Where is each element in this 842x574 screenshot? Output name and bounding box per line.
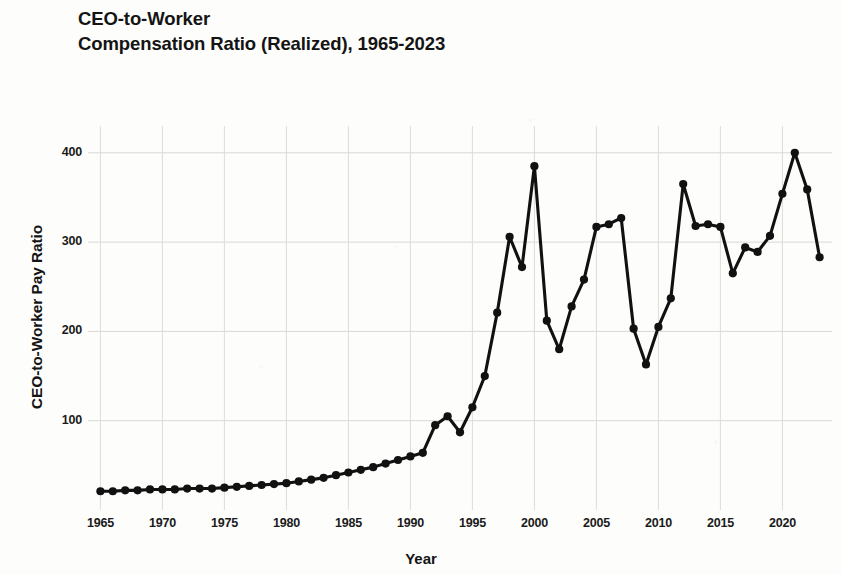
data-point [121, 486, 129, 494]
data-point [605, 220, 613, 228]
data-point [196, 484, 204, 492]
data-point [158, 485, 166, 493]
data-point [543, 317, 551, 325]
data-point [568, 302, 576, 310]
y-tick-label: 300 [36, 234, 82, 248]
data-point [419, 449, 427, 457]
data-point [344, 468, 352, 476]
data-point [506, 233, 514, 241]
data-point [320, 474, 328, 482]
data-point [481, 372, 489, 380]
data-point [382, 459, 390, 467]
data-point [518, 263, 526, 271]
x-tick-label: 2000 [504, 516, 564, 530]
data-point [146, 485, 154, 493]
data-point [258, 481, 266, 489]
data-point [183, 484, 191, 492]
x-tick-label: 1965 [70, 516, 130, 530]
y-axis-tick-labels: 100200300400 [34, 126, 82, 510]
x-tick-label: 2020 [752, 516, 812, 530]
data-point [592, 223, 600, 231]
line-chart-svg [88, 126, 832, 510]
data-point [270, 480, 278, 488]
chart-figure: CEO-to-Worker Compensation Ratio (Realiz… [0, 0, 842, 574]
x-axis-tick-labels: 1965197019751980198519901995200020052010… [88, 516, 832, 536]
data-point [233, 483, 241, 491]
x-tick-label: 1975 [194, 516, 254, 530]
data-point [679, 180, 687, 188]
data-point [667, 294, 675, 302]
data-point [406, 452, 414, 460]
x-tick-label: 1995 [442, 516, 502, 530]
y-tick-label: 200 [36, 323, 82, 337]
y-tick-label: 400 [36, 145, 82, 159]
x-tick-label: 2005 [566, 516, 626, 530]
data-point [766, 232, 774, 240]
x-tick-label: 2015 [690, 516, 750, 530]
data-point [307, 476, 315, 484]
data-point [444, 412, 452, 420]
data-point [245, 482, 253, 490]
data-point [716, 223, 724, 231]
data-point [134, 486, 142, 494]
data-point [704, 220, 712, 228]
plot-area [88, 126, 832, 510]
x-tick-label: 1980 [256, 516, 316, 530]
data-point [369, 463, 377, 471]
data-point [617, 214, 625, 222]
data-markers [96, 149, 823, 496]
data-point [282, 479, 290, 487]
x-axis-title: Year [0, 550, 842, 567]
data-line [100, 153, 819, 491]
data-point [208, 484, 216, 492]
data-point [332, 471, 340, 479]
data-point [816, 253, 824, 261]
data-point [456, 428, 464, 436]
data-point [493, 309, 501, 317]
data-point [654, 323, 662, 331]
data-point [692, 222, 700, 230]
gridlines [88, 126, 832, 510]
data-point [431, 421, 439, 429]
data-point [468, 403, 476, 411]
data-point [580, 276, 588, 284]
data-point [295, 477, 303, 485]
data-point [220, 484, 228, 492]
data-point [357, 466, 365, 474]
data-point [754, 248, 762, 256]
data-point [630, 325, 638, 333]
data-point [96, 487, 104, 495]
y-tick-label: 100 [36, 413, 82, 427]
data-point [555, 345, 563, 353]
data-point [171, 485, 179, 493]
x-tick-label: 1970 [132, 516, 192, 530]
data-point [791, 149, 799, 157]
x-tick-label: 2010 [628, 516, 688, 530]
data-point [778, 190, 786, 198]
data-point [729, 269, 737, 277]
data-point [803, 185, 811, 193]
data-point [741, 243, 749, 251]
x-tick-label: 1985 [318, 516, 378, 530]
data-point [109, 487, 117, 495]
chart-title: CEO-to-Worker Compensation Ratio (Realiz… [78, 6, 718, 56]
data-point [394, 456, 402, 464]
data-point [642, 360, 650, 368]
x-tick-label: 1990 [380, 516, 440, 530]
data-point [530, 162, 538, 170]
